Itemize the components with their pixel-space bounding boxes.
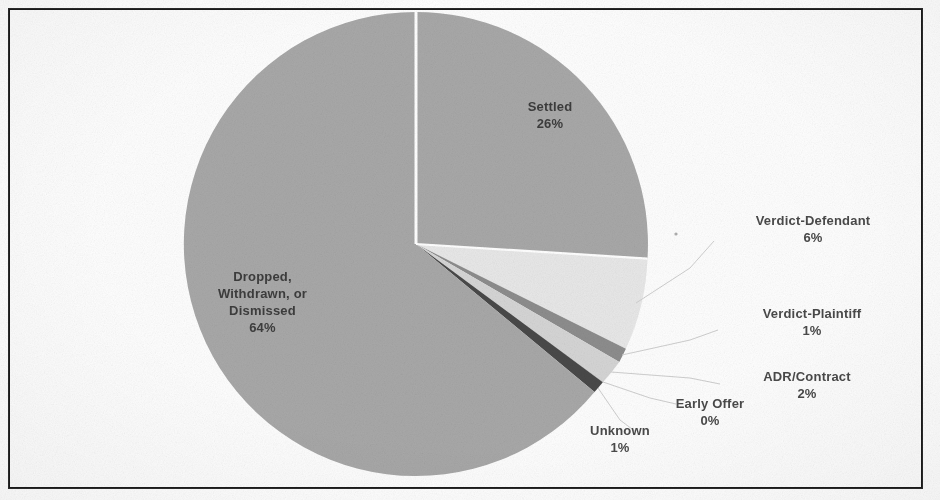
slice-label-settled-percent: 26% (495, 115, 605, 132)
slice-label-dropped-line3: Dismissed (185, 302, 340, 319)
slice-label-verdict-defendant: Verdict-Defendant 6% (718, 212, 908, 246)
slice-label-dropped-line2: Withdrawn, or (185, 285, 340, 302)
slice-label-dropped-line1: Dropped, (185, 268, 340, 285)
slice-label-adr-contract-name: ADR/Contract (722, 368, 892, 385)
leader-line-verdict-plaintiff (622, 330, 718, 355)
slice-label-early-offer-name: Early Offer (650, 395, 770, 412)
slice-label-verdict-defendant-percent: 6% (718, 229, 908, 246)
slice-label-unknown: Unknown 1% (565, 422, 675, 456)
slice-label-dropped-withdrawn-dismissed: Dropped, Withdrawn, or Dismissed 64% (185, 268, 340, 336)
slice-label-dropped-percent: 64% (185, 319, 340, 336)
pie-chart-svg (0, 0, 940, 500)
leader-line-adr-contract (611, 372, 720, 384)
slice-label-verdict-plaintiff: Verdict-Plaintiff 1% (722, 305, 902, 339)
scan-artifact-dot (674, 232, 677, 235)
pie-slices-group (184, 12, 648, 476)
slice-label-verdict-defendant-name: Verdict-Defendant (718, 212, 908, 229)
slice-label-unknown-name: Unknown (565, 422, 675, 439)
slice-label-settled: Settled 26% (495, 98, 605, 132)
slice-label-settled-name: Settled (495, 98, 605, 115)
chart-page: Settled 26% Dropped, Withdrawn, or Dismi… (0, 0, 940, 500)
slice-label-verdict-plaintiff-percent: 1% (722, 322, 902, 339)
slice-label-unknown-percent: 1% (565, 439, 675, 456)
slice-label-verdict-plaintiff-name: Verdict-Plaintiff (722, 305, 902, 322)
pie-slice-settled[interactable] (416, 12, 648, 259)
pie-chart-plot-area: Settled 26% Dropped, Withdrawn, or Dismi… (0, 0, 940, 500)
